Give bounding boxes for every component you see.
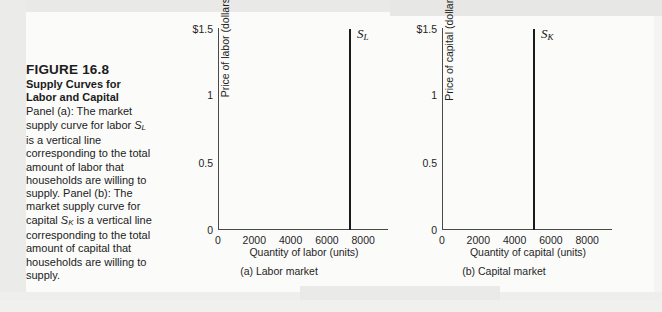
x-tick-label-2000-capital: 2000 (467, 234, 490, 246)
figure-number: FIGURE 16.8 (26, 62, 154, 77)
supply-label-subscript-labor: L (364, 32, 369, 42)
x-axis-title-capital: Quantity of capital (units) (442, 246, 614, 258)
y-axis-title-capital: Price of capital (dollars per unit) (443, 0, 455, 128)
figure-description-part2: is a vertical line corresponding to the … (26, 134, 150, 226)
x-axis-labor (218, 229, 388, 230)
scan-band-bottom-lower (0, 300, 662, 312)
y-tick-label-0-capital: 0 (431, 224, 437, 236)
figure-caption-block: FIGURE 16.8 Supply Curves for Labor and … (26, 62, 154, 282)
y-tick-label-15-capital: $1.5 (417, 23, 437, 35)
x-tick-label-4000-labor: 4000 (279, 234, 302, 246)
x-tick-label-6000-labor: 6000 (315, 234, 338, 246)
x-tick-label-8000-capital: 8000 (576, 234, 599, 246)
y-tick-label-1-capital: 1 (431, 89, 437, 101)
supply-curve-label-capital: SK (541, 26, 554, 42)
scan-band-top-right (390, 0, 662, 16)
figure-description-sl-subscript: L (142, 123, 146, 132)
figure-title: Supply Curves for Labor and Capital (26, 78, 154, 104)
figure-description-sl: S (134, 119, 141, 131)
x-tick-label-0-labor: 0 (215, 234, 221, 246)
supply-label-subscript-capital: K (548, 32, 554, 42)
plot-area-labor: 0 0.5 1 $1.5 0 2000 4000 6000 8000 SL Pr… (218, 28, 366, 230)
x-tick-label-4000-capital: 4000 (503, 234, 526, 246)
x-axis-title-labor: Quantity of labor (units) (218, 246, 390, 258)
x-tick-label-2000-labor: 2000 (243, 234, 266, 246)
supply-curve-labor (349, 29, 351, 230)
y-tick-label-1-labor: 1 (207, 89, 213, 101)
supply-curve-capital (533, 29, 535, 230)
scan-band-bottom-center (300, 286, 500, 300)
supply-curve-label-labor: SL (357, 26, 369, 42)
plot-area-capital: 0 0.5 1 $1.5 0 2000 4000 6000 8000 SK Pr… (442, 28, 590, 230)
scan-band-left (0, 0, 26, 312)
chart-panel-labor-market: 0 0.5 1 $1.5 0 2000 4000 6000 8000 SL Pr… (172, 18, 392, 286)
figure-description: Panel (a): The market supply curve for l… (26, 105, 154, 282)
y-axis-title-labor: Price of labor (dollars per unit) (219, 0, 231, 128)
y-tick-label-05-labor: 0.5 (198, 157, 213, 169)
y-tick-label-0-labor: 0 (207, 224, 213, 236)
figure-description-part1: Panel (a): The market supply curve for l… (26, 105, 134, 130)
x-tick-label-8000-labor: 8000 (352, 234, 375, 246)
x-axis-capital (442, 229, 612, 230)
x-tick-label-0-capital: 0 (439, 234, 445, 246)
panel-caption-labor: (a) Labor market (172, 265, 386, 277)
y-tick-label-05-capital: 0.5 (422, 157, 437, 169)
panel-caption-capital: (b) Capital market (396, 265, 612, 277)
y-tick-label-15-labor: $1.5 (193, 23, 213, 35)
chart-panel-capital-market: 0 0.5 1 $1.5 0 2000 4000 6000 8000 SK Pr… (396, 18, 618, 286)
x-tick-label-6000-capital: 6000 (539, 234, 562, 246)
